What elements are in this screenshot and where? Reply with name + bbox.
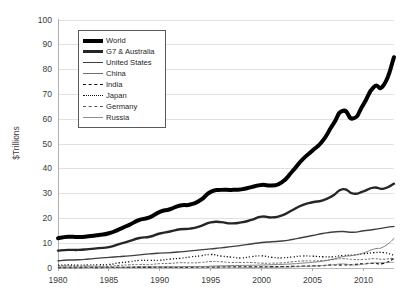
legend-item: Japan bbox=[82, 90, 162, 101]
legend-item: Germany bbox=[82, 101, 162, 112]
series-line-germany bbox=[58, 258, 394, 266]
x-axis-tick-labels: 1980198519901995200020052010 bbox=[0, 272, 419, 290]
legend-item: China bbox=[82, 68, 162, 79]
x-axis-tick-label: 2005 bbox=[293, 276, 333, 285]
chart-legend: WorldG7 & AustraliaUnited StatesChinaInd… bbox=[78, 30, 166, 128]
legend-item: Russia bbox=[82, 112, 162, 123]
x-axis-tick-label: 2010 bbox=[343, 276, 383, 285]
legend-item: United States bbox=[82, 57, 162, 68]
legend-swatch-united-states bbox=[82, 57, 104, 68]
legend-label: China bbox=[104, 68, 126, 79]
x-axis-tick-label: 1985 bbox=[89, 276, 129, 285]
x-axis-tick-label: 2000 bbox=[242, 276, 282, 285]
chart-canvas bbox=[0, 0, 419, 296]
line-chart: $Trillions 0102030405060708090100 198019… bbox=[0, 0, 419, 296]
legend-label: Japan bbox=[104, 90, 127, 101]
legend-label: United States bbox=[104, 57, 152, 68]
legend-item: World bbox=[82, 35, 162, 46]
x-axis-tick-label: 1995 bbox=[191, 276, 231, 285]
legend-label: G7 & Australia bbox=[104, 46, 155, 57]
legend-item: G7 & Australia bbox=[82, 46, 162, 57]
x-axis-tick-label: 1980 bbox=[38, 276, 78, 285]
legend-swatch-germany bbox=[82, 101, 104, 112]
x-axis-tick-label: 1990 bbox=[140, 276, 180, 285]
legend-swatch-china bbox=[82, 68, 104, 79]
legend-label: Germany bbox=[104, 101, 137, 112]
legend-swatch-india bbox=[82, 79, 104, 90]
legend-swatch-japan bbox=[82, 90, 104, 101]
legend-label: Russia bbox=[104, 112, 129, 123]
legend-swatch-russia bbox=[82, 112, 104, 123]
legend-swatch-g7-australia bbox=[82, 46, 104, 57]
legend-item: India bbox=[82, 79, 162, 90]
legend-label: India bbox=[104, 79, 122, 90]
legend-label: World bbox=[104, 35, 126, 46]
legend-swatch-world bbox=[82, 35, 104, 46]
